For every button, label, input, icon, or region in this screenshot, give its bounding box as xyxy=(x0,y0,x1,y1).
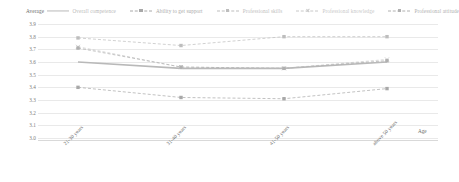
x-axis-tick-labels: 21-30 years31-40 years41-50 yearsabove 5… xyxy=(38,142,438,182)
data-point-marker xyxy=(385,87,388,90)
data-point-marker xyxy=(179,65,182,68)
chart-root: Average Overall competenceAbility to get… xyxy=(0,0,459,182)
plot-area xyxy=(38,22,438,140)
legend-label: Overall competence xyxy=(73,8,116,14)
legend-swatch-line-icon xyxy=(47,7,69,15)
legend-item-0[interactable]: Overall competence xyxy=(47,7,116,15)
y-axis-tick-labels: 3.93.83.73.63.53.43.33.23.13.0 xyxy=(10,22,36,140)
y-tick-label: 3.4 xyxy=(29,84,36,90)
y-tick-label: 3.7 xyxy=(29,46,36,52)
data-point-marker xyxy=(282,67,285,70)
data-point-marker xyxy=(179,96,182,99)
x-axis-title: Age xyxy=(418,128,427,134)
data-point-marker xyxy=(179,44,182,47)
y-tick-label: 3.9 xyxy=(29,21,36,27)
series-line xyxy=(78,37,387,46)
data-point-marker xyxy=(385,35,388,38)
legend-item-4[interactable]: Professional attitude xyxy=(388,7,459,15)
y-tick-label: 3.2 xyxy=(29,110,36,116)
data-point-marker xyxy=(76,86,79,89)
legend-item-2[interactable]: Professional skills xyxy=(217,7,283,15)
y-tick-label: 3.0 xyxy=(29,135,36,141)
chart-legend: Average Overall competenceAbility to get… xyxy=(0,4,459,17)
y-tick-label: 3.5 xyxy=(29,72,36,78)
series-lines xyxy=(38,22,438,140)
data-point-marker xyxy=(385,59,388,62)
y-tick-label: 3.3 xyxy=(29,97,36,103)
data-point-marker xyxy=(282,97,285,100)
data-point-marker xyxy=(76,36,79,39)
legend-item-3[interactable]: Professional knowledge xyxy=(296,7,374,15)
y-tick-label: 3.6 xyxy=(29,59,36,65)
legend-label: Professional attitude xyxy=(414,8,459,14)
legend-label: Professional skills xyxy=(243,8,283,14)
legend-title: Average xyxy=(26,8,47,14)
y-tick-label: 3.1 xyxy=(29,122,36,128)
legend-swatch-square-icon xyxy=(130,7,152,15)
series-line xyxy=(78,87,387,98)
y-tick-label: 3.8 xyxy=(29,34,36,40)
legend-swatch-square-icon xyxy=(388,7,410,15)
data-point-marker xyxy=(76,46,79,49)
legend-label: Professional knowledge xyxy=(322,8,374,14)
legend-swatch-x-icon xyxy=(296,7,318,15)
legend-item-1[interactable]: Ability to get support xyxy=(130,7,203,15)
data-point-marker xyxy=(282,35,285,38)
legend-label: Ability to get support xyxy=(156,8,203,14)
legend-swatch-square-icon xyxy=(217,7,239,15)
